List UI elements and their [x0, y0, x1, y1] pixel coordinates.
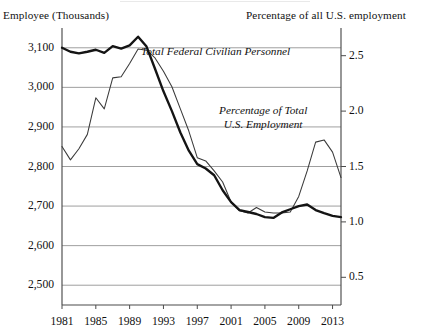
left-tick-label: 2,800 [0, 160, 54, 173]
right-tick-label: 0.5 [349, 270, 364, 283]
right-tick-label: 2.0 [349, 104, 364, 117]
left-tick-label: 2,900 [0, 120, 54, 133]
right-tick-marks-group [341, 56, 346, 278]
chart-figure: Employee (Thousands) Percentage of all U… [0, 0, 426, 336]
right-tick-label: 1.0 [349, 215, 364, 228]
left-tick-label: 3,100 [0, 41, 54, 54]
annotation-percentage-line2: U.S. Employment [219, 118, 307, 132]
right-axis-caption: Percentage of all U.S. employment [246, 9, 406, 21]
annotation-percentage-line1: Percentage of Total [219, 104, 307, 118]
left-tick-label: 3,000 [0, 80, 54, 93]
annotation-personnel: Total Federal Civilian Personnel [141, 45, 290, 59]
left-tick-label: 2,500 [0, 278, 54, 291]
left-tick-label: 2,600 [0, 239, 54, 252]
x-tick-label: 2013 [313, 315, 353, 328]
right-tick-label: 2.5 [349, 49, 364, 62]
left-tick-label: 2,700 [0, 199, 54, 212]
top-rule-divider [120, 1, 310, 2]
plot-area [62, 28, 341, 305]
left-axis-caption: Employee (Thousands) [3, 9, 109, 21]
annotation-percentage: Percentage of Total U.S. Employment [219, 104, 307, 131]
right-tick-label: 1.5 [349, 160, 364, 173]
chart-svg [62, 28, 341, 305]
series-line-percentage [62, 49, 341, 213]
x-tick-marks-group [62, 305, 333, 309]
